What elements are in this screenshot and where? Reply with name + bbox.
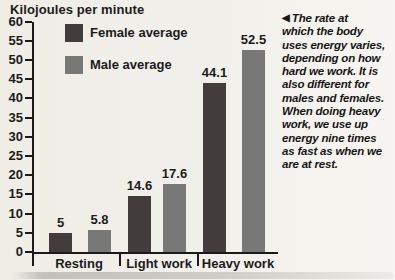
y-axis-tick-label: 15 <box>0 186 23 202</box>
bar-male-light-work <box>163 184 186 252</box>
legend-label-female: Female average <box>90 24 188 42</box>
scan-shadow <box>12 272 393 279</box>
y-axis-tick-label: 10 <box>0 206 23 222</box>
y-axis-tick <box>25 59 32 61</box>
category-label-light-work: Light work <box>114 256 204 272</box>
y-axis-tick <box>25 232 32 234</box>
bar-male-heavy-work <box>242 50 265 252</box>
y-axis-tick-label: 35 <box>0 110 23 126</box>
bar-female-light-work <box>128 196 151 252</box>
y-axis-tick <box>25 193 32 195</box>
y-axis-tick <box>25 251 32 253</box>
y-axis-tick-label: 20 <box>0 167 23 183</box>
x-axis-line <box>32 252 278 254</box>
male-swatch <box>65 56 83 74</box>
bar-female-resting <box>49 233 72 252</box>
y-axis-tick-label: 0 <box>0 244 23 260</box>
y-axis-tick-label: 5 <box>0 225 23 241</box>
y-axis-tick-label: 25 <box>0 148 23 164</box>
bar-value-label: 5.8 <box>70 212 130 228</box>
category-label-heavy-work: Heavy work <box>193 256 283 272</box>
bar-female-heavy-work <box>203 83 226 252</box>
y-axis-tick-label: 55 <box>0 33 23 49</box>
bar-value-label: 44.1 <box>185 65 245 81</box>
chart-title: Kilojoules per minute <box>10 2 144 17</box>
bar-male-resting <box>88 230 111 252</box>
y-axis-tick-label: 60 <box>0 14 23 30</box>
legend-label-male: Male average <box>90 56 172 74</box>
y-axis-tick <box>25 117 32 119</box>
bar-value-label: 17.6 <box>145 166 205 182</box>
y-axis-tick <box>25 155 32 157</box>
y-axis-tick <box>25 40 32 42</box>
y-axis-tick <box>25 136 32 138</box>
left-arrow-icon: ◀ <box>282 12 290 23</box>
y-axis-tick-label: 40 <box>0 90 23 106</box>
category-label-resting: Resting <box>34 256 124 272</box>
female-swatch <box>65 24 83 42</box>
y-axis-tick <box>25 21 32 23</box>
caption: ◀The rate at which the body uses energy … <box>282 12 395 172</box>
y-axis-tick <box>25 78 32 80</box>
y-axis-tick-label: 30 <box>0 129 23 145</box>
y-axis-tick-label: 45 <box>0 71 23 87</box>
scanned-bar-chart-page: Kilojoules per minute 051015202530354045… <box>0 0 395 280</box>
bar-value-label: 52.5 <box>224 32 284 48</box>
y-axis-tick <box>25 174 32 176</box>
y-axis-tick <box>25 97 32 99</box>
y-axis-tick-label: 50 <box>0 52 23 68</box>
caption-text: The rate at which the body uses energy v… <box>282 12 385 170</box>
